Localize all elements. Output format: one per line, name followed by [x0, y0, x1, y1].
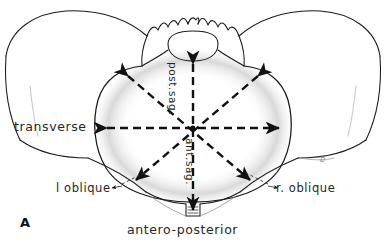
pelvic-inlet-diagram: transverse l oblique r. oblique antero-p… — [0, 0, 386, 249]
label-antero-posterior: antero-posterior — [127, 222, 238, 237]
left-oblique-leader — [122, 172, 146, 184]
label-posterior-sagittal: post.sag. — [167, 62, 179, 115]
left-oblique-leader-tip — [112, 186, 122, 188]
stray-annotation-mark: b — [320, 155, 326, 164]
center-of-inlet — [191, 126, 196, 131]
label-anterior-sagittal: ant.sag. — [184, 138, 196, 185]
panel-letter: A — [20, 215, 30, 230]
label-transverse: transverse — [14, 119, 87, 134]
label-right-oblique: r. oblique — [276, 181, 335, 195]
label-left-oblique: l oblique — [56, 181, 111, 195]
